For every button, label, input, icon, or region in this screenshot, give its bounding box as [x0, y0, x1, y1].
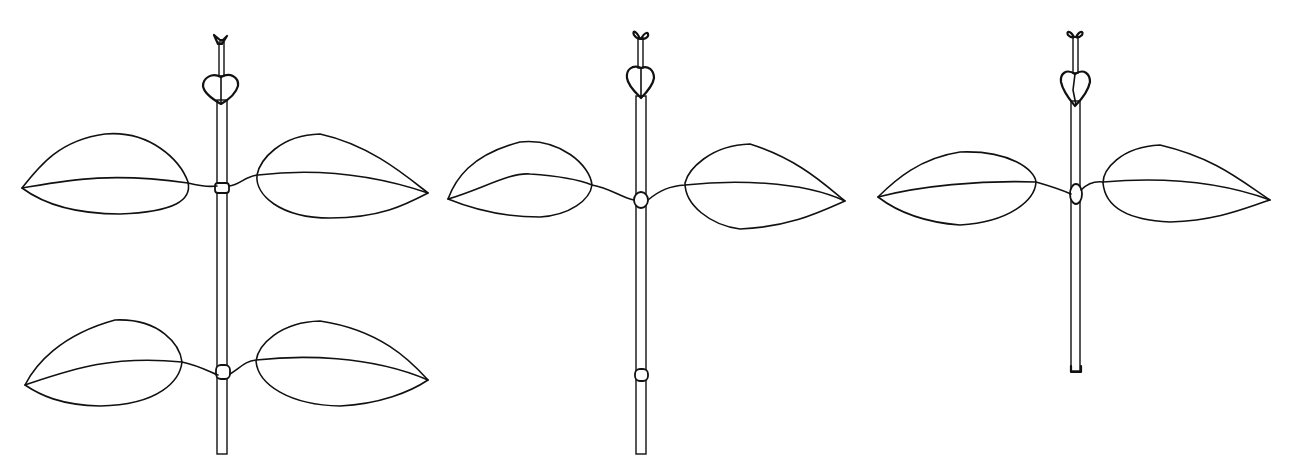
- drawing-canvas: [0, 0, 1295, 467]
- plant-3: [878, 32, 1270, 372]
- plant-2-stem: [636, 96, 646, 454]
- plant-3-stem: [1071, 101, 1080, 371]
- plant-2-leaf-right: [648, 144, 845, 229]
- plant-1-apical-bud: [203, 35, 238, 104]
- plant-2-node-2: [635, 369, 648, 381]
- plant-1-node-1: [215, 183, 229, 193]
- plant-3-leaf-left: [878, 152, 1071, 225]
- plant-3-apical-bud: [1061, 32, 1090, 106]
- plant-drawing-figure: [0, 0, 1295, 467]
- plant-3-leaf-right: [1081, 145, 1270, 222]
- plant-1-leaf-lower-right: [230, 321, 428, 406]
- plant-1-leaf-upper-right: [229, 134, 428, 218]
- plant-1-leaf-upper-left: [22, 134, 217, 214]
- plant-1: [22, 35, 428, 454]
- plant-2: [448, 32, 845, 454]
- plant-2-apical-bud: [627, 32, 654, 98]
- plant-1-leaf-lower-left: [25, 320, 218, 406]
- plant-1-node-2: [216, 365, 230, 379]
- plant-2-leaf-left: [448, 142, 634, 217]
- plant-2-node-1: [634, 192, 648, 208]
- plant-1-stem: [217, 100, 227, 454]
